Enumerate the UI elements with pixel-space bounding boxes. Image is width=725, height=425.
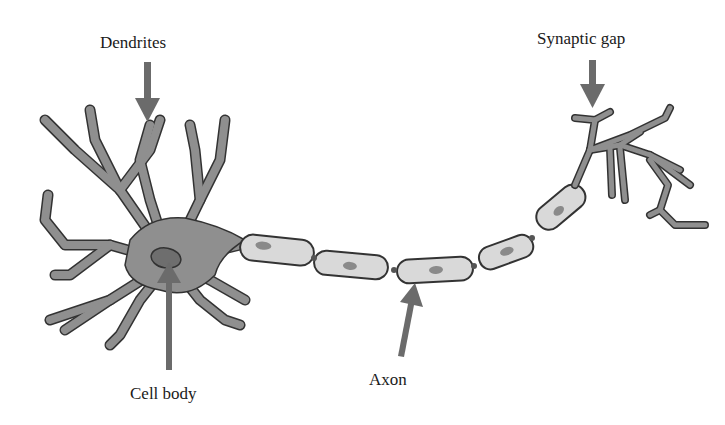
cell-body-arrow-icon [157,262,181,370]
axon-segments [239,180,590,284]
neuron-illustration [0,0,725,425]
label-cell-body: Cell body [130,385,197,402]
dendrites-arrow-icon [135,62,160,122]
cell-body-and-dendrites [45,110,245,345]
axon-arrow-icon [398,283,423,357]
neuron-diagram: Dendrites Synaptic gap Cell body Axon [0,0,725,425]
synaptic-gap-arrow-icon [580,60,605,108]
axon-terminals [575,108,705,225]
label-dendrites: Dendrites [100,34,166,51]
label-synaptic-gap: Synaptic gap [537,30,625,47]
label-axon: Axon [369,371,407,388]
